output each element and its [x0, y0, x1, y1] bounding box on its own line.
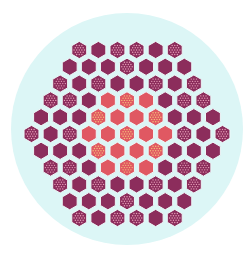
assembly-hex [100, 125, 115, 142]
assembly-hex [110, 109, 125, 126]
assembly-hex [148, 176, 163, 193]
assembly-hex [120, 125, 135, 142]
assembly-hex [43, 125, 58, 142]
assembly-hex [53, 176, 68, 193]
assembly-hex [129, 209, 144, 226]
assembly-hex [81, 58, 96, 75]
assembly-hex [100, 92, 115, 109]
assembly-hex [110, 75, 125, 92]
assembly-hex [186, 176, 201, 193]
assembly-hex [72, 176, 87, 193]
assembly-hex [120, 92, 135, 109]
assembly-hex [62, 193, 77, 210]
assembly-hex [177, 92, 192, 109]
assembly-hex [110, 41, 125, 58]
assembly-hex [206, 142, 221, 159]
assembly-hex [177, 125, 192, 142]
assembly-hex [129, 176, 144, 193]
assembly-hex [148, 41, 163, 58]
assembly-hex [139, 193, 154, 210]
assembly-hex [43, 92, 58, 109]
assembly-hex [139, 58, 154, 75]
assembly-hex [100, 193, 115, 210]
assembly-hex [158, 159, 173, 176]
assembly-hex [167, 75, 182, 92]
assembly-hex [81, 193, 96, 210]
assembly-hex [206, 109, 221, 126]
assembly-hex [177, 58, 192, 75]
assembly-hex [62, 92, 77, 109]
assembly-hex [158, 58, 173, 75]
assembly-hex [72, 209, 87, 226]
assembly-hex [139, 159, 154, 176]
assembly-hex [62, 159, 77, 176]
assembly-hex [167, 209, 182, 226]
assembly-hex [100, 159, 115, 176]
assembly-hex [177, 193, 192, 210]
assembly-hex [110, 209, 125, 226]
assembly-hex [120, 159, 135, 176]
assembly-hex [158, 92, 173, 109]
assembly-hex [196, 159, 211, 176]
assembly-hex [100, 58, 115, 75]
assembly-hex [167, 41, 182, 58]
assembly-hex [186, 75, 201, 92]
assembly-hex [81, 159, 96, 176]
assembly-hex [24, 125, 39, 142]
assembly-hex [53, 75, 68, 92]
assembly-hex [72, 109, 87, 126]
assembly-hex [148, 75, 163, 92]
assembly-hex [34, 142, 49, 159]
assembly-hex [72, 41, 87, 58]
assembly-hex [177, 159, 192, 176]
assembly-hex [62, 58, 77, 75]
assembly-hex [91, 209, 106, 226]
assembly-hex [91, 75, 106, 92]
assembly-hex [91, 142, 106, 159]
assembly-hex [81, 125, 96, 142]
assembly-hex [110, 176, 125, 193]
assembly-hex [120, 193, 135, 210]
assembly-hex [91, 176, 106, 193]
assembly-hex [53, 109, 68, 126]
assembly-hex [167, 176, 182, 193]
assembly-hex [148, 109, 163, 126]
assembly-hex [43, 159, 58, 176]
assembly-hex [158, 125, 173, 142]
assembly-hex [91, 41, 106, 58]
assembly-hex [129, 109, 144, 126]
assembly-hex [53, 142, 68, 159]
assembly-hex [186, 109, 201, 126]
assembly-hex [148, 142, 163, 159]
assembly-hex [167, 109, 182, 126]
assembly-hex [148, 209, 163, 226]
assembly-hex [139, 125, 154, 142]
assembly-hex [139, 92, 154, 109]
assembly-hex [158, 193, 173, 210]
assembly-hex [34, 109, 49, 126]
assembly-hex [120, 58, 135, 75]
assembly-hex [129, 75, 144, 92]
assembly-hex [72, 75, 87, 92]
assembly-hex [91, 109, 106, 126]
assembly-hex [215, 125, 230, 142]
assembly-hex [186, 142, 201, 159]
assembly-hex [62, 125, 77, 142]
assembly-hex [129, 142, 144, 159]
assembly-hex [196, 92, 211, 109]
assembly-hex [196, 125, 211, 142]
core-map-diagram [0, 0, 249, 255]
assembly-hex [129, 41, 144, 58]
assembly-hex [81, 92, 96, 109]
assembly-hex [72, 142, 87, 159]
assembly-hex [110, 142, 125, 159]
assembly-hex [167, 142, 182, 159]
